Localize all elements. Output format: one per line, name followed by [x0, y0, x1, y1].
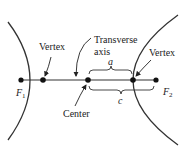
vertex-left-label: Vertex — [39, 41, 65, 52]
hyperbola-diagram: Vertex Transverse axis Center Vertex a c… — [0, 0, 186, 151]
diagram-canvas: Vertex Transverse axis Center Vertex a c… — [0, 0, 186, 151]
a-label: a — [108, 56, 113, 67]
focus-f2-point — [153, 77, 158, 82]
f2-label: F2 — [162, 86, 173, 99]
brace-c — [89, 86, 154, 94]
center-label: Center — [63, 108, 90, 119]
c-label: c — [118, 95, 123, 106]
vertex-left-point — [40, 77, 46, 83]
focus-f1-point — [18, 77, 23, 82]
center-arrow — [75, 85, 86, 106]
f1-label: F1 — [15, 87, 26, 100]
brace-a — [89, 66, 132, 74]
transverse-label-line1: Transverse — [94, 34, 138, 45]
transverse-axis-arrow — [76, 38, 91, 76]
vertex-left-arrow — [45, 57, 51, 76]
vertex-right-arrow — [136, 60, 151, 76]
center-point — [85, 77, 91, 83]
vertex-right-point — [130, 77, 136, 83]
vertex-right-label: Vertex — [149, 47, 175, 58]
